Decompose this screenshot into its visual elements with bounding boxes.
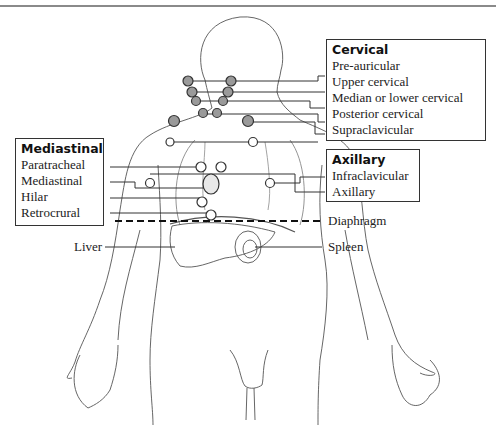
cervical-group-box: Cervical Pre-auricular Upper cervical Me… (326, 39, 486, 141)
node-label-infraclavicular: Infraclavicular (332, 168, 414, 184)
spleen-label: Spleen (328, 239, 363, 255)
node-label-upper-cervical: Upper cervical (332, 74, 480, 90)
node-label-posterior-cervical: Posterior cervical (332, 106, 480, 122)
node-label-paratracheal: Paratracheal (21, 157, 98, 173)
axillary-title: Axillary (332, 152, 414, 168)
node-label-axillary: Axillary (332, 184, 414, 200)
node-label-hilar: Hilar (21, 189, 98, 205)
node-label-supraclavicular: Supraclavicular (332, 122, 480, 138)
mediastinal-group-box: Mediastinal Paratracheal Mediastinal Hil… (15, 138, 104, 226)
node-label-retrocrural: Retrocrural (21, 205, 98, 221)
node-label-median-lower-cervical: Median or lower cervical (332, 90, 480, 106)
node-label-pre-auricular: Pre-auricular (332, 58, 480, 74)
diaphragm-label: Diaphragm (328, 213, 386, 229)
node-label-mediastinal: Mediastinal (21, 173, 98, 189)
axillary-group-box: Axillary Infraclavicular Axillary (326, 149, 420, 202)
cervical-title: Cervical (332, 42, 480, 58)
liver-label: Liver (74, 239, 102, 255)
mediastinal-title: Mediastinal (21, 141, 98, 157)
